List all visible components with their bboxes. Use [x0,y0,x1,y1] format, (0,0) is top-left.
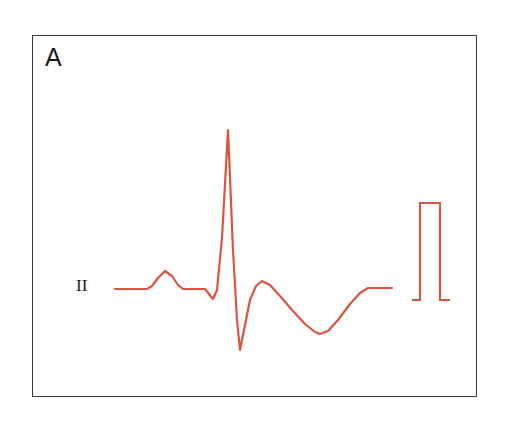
panel-label-a: A [45,45,62,70]
lead-label-ii: II [76,277,87,294]
ecg-figure-panel: A II [0,0,506,423]
plot-frame-border [32,35,477,397]
